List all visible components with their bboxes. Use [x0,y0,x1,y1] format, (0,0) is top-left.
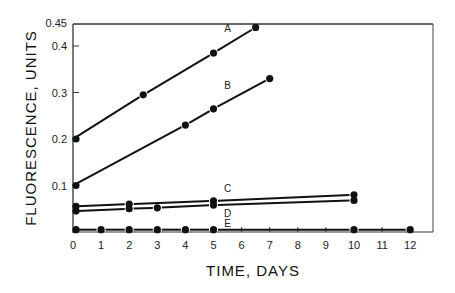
series-line [217,30,251,51]
series-line [77,209,124,211]
data-point [98,226,105,233]
series-line [189,111,209,123]
data-point [126,205,133,212]
data-point [252,24,259,31]
series-line [134,208,153,209]
series-label: C [224,183,231,194]
data-point [210,105,217,112]
series-label: A [224,23,231,34]
x-tick-label: 11 [376,239,387,251]
data-point [182,226,189,233]
data-point [210,201,217,208]
series-line [147,55,210,92]
data-point [72,226,79,233]
x-axis-title: TIME, DAYS [206,262,300,279]
series-line [162,205,209,207]
y-tick-label: 0.3 [52,87,67,99]
series-line [218,195,350,201]
y-tick-label: 0.2 [52,133,67,145]
data-point [210,226,217,233]
data-point [154,226,161,233]
data-point [140,91,147,98]
data-point [72,207,79,214]
x-tick-label: 0 [70,239,76,251]
x-tick-label: 6 [239,239,245,251]
x-tick-label: 10 [348,239,360,251]
series-group: ABCDE [72,23,413,233]
y-axis: 0.10.20.30.40.45 [46,17,79,192]
data-point [72,135,79,142]
x-tick-label: 5 [210,239,216,251]
series-line [77,97,140,136]
x-tick-label: 3 [154,239,160,251]
data-point [182,121,189,128]
x-tick-label: 12 [404,239,416,251]
series-label: E [224,218,231,229]
x-tick-label: 4 [182,239,188,251]
series-e: E [72,218,413,234]
data-point [350,226,357,233]
fluorescence-chart: 0.10.20.30.40.45 0123456789101112 ABCDE … [0,0,455,293]
x-tick-label: 2 [126,239,132,251]
data-point [210,49,217,56]
y-tick-label: 0.4 [52,40,67,52]
series-label: B [224,80,231,91]
data-point [72,182,79,189]
series-line [77,127,181,183]
y-tick-label: 0.1 [52,180,67,192]
data-point [154,204,161,211]
y-tick-label: 0.45 [46,17,67,29]
data-point [350,197,357,204]
x-tick-label: 8 [295,239,301,251]
y-axis-title: FLUORESCENCE, UNITS [22,30,39,226]
x-tick-label: 7 [267,239,273,251]
series-line [134,201,209,204]
series-b: B [72,75,273,189]
data-point [126,226,133,233]
series-line [218,201,350,205]
series-line [77,204,124,206]
x-tick-label: 1 [98,239,104,251]
data-point [266,75,273,82]
data-point [407,226,414,233]
x-tick-label: 9 [323,239,329,251]
series-a: A [72,23,259,142]
